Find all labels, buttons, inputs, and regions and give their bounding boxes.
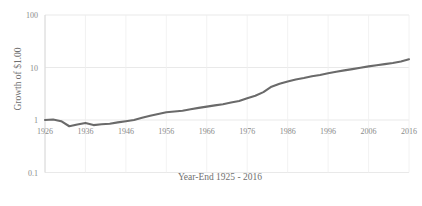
y-tick-label: 0.1 <box>28 169 38 178</box>
x-tick-label: 1946 <box>118 127 134 136</box>
x-axis-tick-labels: 1926193619461956196619761986199620062016 <box>37 127 417 136</box>
x-tick-label: 1996 <box>320 127 336 136</box>
x-tick-label: 1966 <box>199 127 215 136</box>
x-tick-label: 1956 <box>158 127 174 136</box>
x-axis-title: Year-End 1925 - 2016 <box>178 172 262 182</box>
gridlines <box>45 15 409 173</box>
data-series-layer <box>45 59 409 126</box>
growth-of-dollar-chart: 1001010.1 192619361946195619661976198619… <box>0 0 422 206</box>
x-tick-label: 1926 <box>37 127 53 136</box>
x-tick-label: 2006 <box>361 127 377 136</box>
y-tick-label: 10 <box>30 64 38 73</box>
chart-plot-area: 1001010.1 192619361946195619661976198619… <box>0 0 422 206</box>
y-tick-label: 100 <box>26 11 38 20</box>
data-line-growth-of-dollar <box>45 59 409 126</box>
y-axis-title: Growth of $1.00 <box>13 47 23 110</box>
x-tick-label: 2016 <box>401 127 417 136</box>
y-axis-tick-labels: 1001010.1 <box>26 11 38 178</box>
x-tick-label: 1936 <box>77 127 93 136</box>
y-tick-label: 1 <box>34 116 38 125</box>
x-tick-label: 1976 <box>239 127 255 136</box>
x-tick-label: 1986 <box>280 127 296 136</box>
